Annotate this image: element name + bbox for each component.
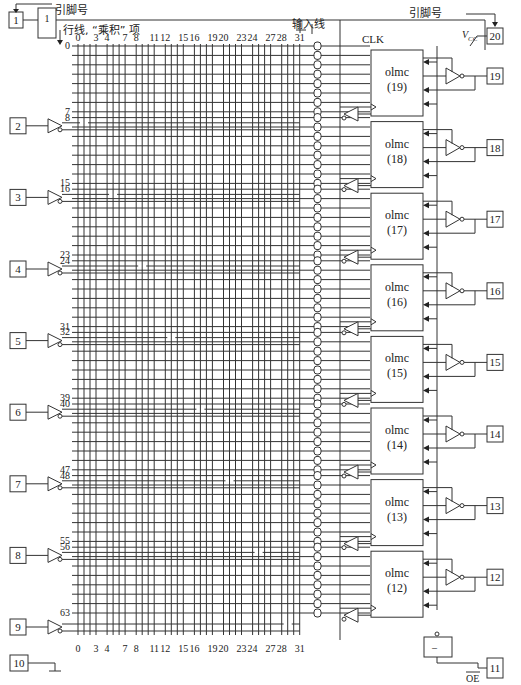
inverter-bubble-icon <box>58 414 62 418</box>
inverter-bubble-icon <box>342 474 346 478</box>
inverter-bubble-icon <box>460 504 464 508</box>
inverter-bubble-icon <box>435 632 439 636</box>
and-gate <box>314 543 321 551</box>
oe-buffer <box>424 637 452 657</box>
and-gate <box>314 213 321 221</box>
input-pin-number: 9 <box>15 621 21 633</box>
feedback-arrow-icon <box>423 59 429 65</box>
inverter-bubble-icon <box>460 289 464 293</box>
olmc-name: olmc <box>385 351 409 365</box>
column-label-bottom: 12 <box>160 643 170 654</box>
output-pin-number: 17 <box>490 213 502 225</box>
and-gate <box>314 509 321 517</box>
row-label: 16 <box>60 183 70 194</box>
column-label-bottom: 3 <box>94 643 99 654</box>
output-pin-number: 18 <box>490 142 502 154</box>
and-gate <box>314 472 321 480</box>
and-gate <box>314 204 321 212</box>
and-gate <box>314 357 321 365</box>
feedback-arrow-icon <box>423 560 429 566</box>
inverter-bubble-icon <box>342 259 346 263</box>
feedback-arrow-icon <box>423 274 429 280</box>
and-gate <box>314 438 321 446</box>
feedback-arrow-icon <box>423 159 429 165</box>
and-gate <box>314 151 321 159</box>
column-label-bottom: 20 <box>219 643 229 654</box>
column-label-top: 24 <box>248 32 258 43</box>
and-gate <box>314 590 321 598</box>
and-gate <box>314 490 321 498</box>
column-label-top: 31 <box>295 32 305 43</box>
and-gate <box>314 170 321 178</box>
feedback-arrow-icon <box>423 173 429 179</box>
and-gate <box>314 42 321 50</box>
and-gate <box>314 195 321 203</box>
and-gate <box>314 266 321 274</box>
input-pin-number: 2 <box>15 120 21 132</box>
olmc-id: (19) <box>387 80 407 94</box>
and-gate <box>314 304 321 312</box>
row-label: 24 <box>60 255 70 266</box>
and-gate <box>314 528 321 536</box>
arrow-icon <box>492 22 498 27</box>
and-gate <box>314 132 321 140</box>
column-label-top: 8 <box>134 32 139 43</box>
feedback-arrow-icon <box>423 445 429 451</box>
and-gate <box>314 114 321 122</box>
olmc-name: olmc <box>385 423 409 437</box>
oe-pin-number: 11 <box>490 662 501 674</box>
and-gate <box>314 375 321 383</box>
pointer-line <box>466 14 495 22</box>
feedback-arrow-icon <box>423 87 429 93</box>
input-pin-number: 7 <box>15 478 21 490</box>
column-label-top: 27 <box>266 32 276 43</box>
and-gate <box>314 456 321 464</box>
output-buffer-icon <box>446 211 460 227</box>
column-label-bottom: 4 <box>105 643 110 654</box>
and-gate <box>314 600 321 608</box>
column-label-top: 15 <box>178 32 188 43</box>
input-line-label: 输入线 <box>292 17 325 31</box>
column-label-top: 16 <box>189 32 199 43</box>
and-gate <box>314 500 321 508</box>
input-pin-number: 8 <box>15 549 21 561</box>
olmc-id: (18) <box>387 152 407 166</box>
column-label-top: 0 <box>76 32 81 43</box>
feedback-arrow-icon <box>423 202 429 208</box>
input-pin-number: 4 <box>15 263 21 275</box>
output-pin-number: 15 <box>490 356 502 368</box>
olmc-name: olmc <box>385 208 409 222</box>
feedback-arrow-icon <box>423 131 429 137</box>
column-label-bottom: 16 <box>189 643 199 654</box>
olmc-name: olmc <box>385 566 409 580</box>
and-gate <box>314 581 321 589</box>
column-label-top: 11 <box>149 32 159 43</box>
inverter-bubble-icon <box>58 557 62 561</box>
inverter-bubble-icon <box>342 331 346 335</box>
pin-number-label-left: 引脚号 <box>55 3 88 17</box>
feedback-arrow-icon <box>423 101 429 107</box>
and-gate <box>314 481 321 489</box>
feedback-arrow-icon <box>423 345 429 351</box>
column-label-bottom: 28 <box>277 643 287 654</box>
olmc-section: 20olmc(19)19olmc(18)18olmc(17)17olmc(16)… <box>340 20 503 678</box>
feedback-arrow-icon <box>423 373 429 379</box>
column-label-top: 7 <box>123 32 128 43</box>
feedback-arrow-icon <box>423 531 429 537</box>
row-label: 0 <box>65 40 70 51</box>
output-buffer-icon <box>446 354 460 370</box>
and-gate <box>314 400 321 408</box>
output-pin-number: 16 <box>490 285 502 297</box>
output-buffer-icon <box>446 498 460 514</box>
and-gate <box>314 609 321 617</box>
column-label-top: 20 <box>219 32 229 43</box>
row-label: 40 <box>60 398 70 409</box>
output-buffer-icon <box>446 68 460 84</box>
and-gate <box>314 553 321 561</box>
output-buffer-icon <box>446 569 460 585</box>
and-gate <box>314 338 321 346</box>
and-gate <box>314 409 321 417</box>
inverter-bubble-icon <box>342 546 346 550</box>
and-gate <box>314 385 321 393</box>
and-gate <box>314 98 321 106</box>
